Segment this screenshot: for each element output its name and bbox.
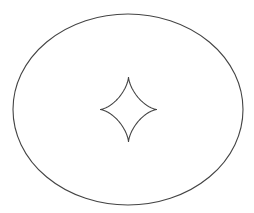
outer-ellipse xyxy=(13,14,243,205)
astroid-star-shape xyxy=(100,77,157,142)
diagram-canvas xyxy=(0,0,254,213)
